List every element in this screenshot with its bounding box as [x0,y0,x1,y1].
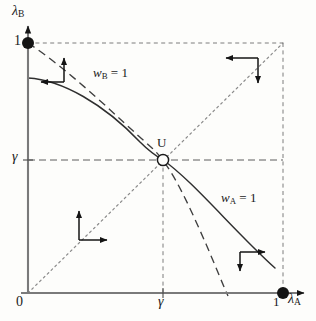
x-tick-label-gamma: γ [158,295,164,309]
direction-arrows-upper-left [41,58,64,82]
reference-line-diagonal [28,43,283,293]
origin-label: 0 [16,295,23,309]
y-tick-label-one: 1 [14,34,21,48]
equilibrium-point-u [157,154,168,165]
y-tick-label-gamma: γ [12,150,18,164]
direction-arrows-lower-left [79,211,107,240]
dot-y-axis-one [22,37,34,49]
nullcline-wa-label: wA = 1 [221,191,256,206]
plot-canvas [0,0,316,321]
nullcline-wa-curve [28,43,228,296]
x-tick-label-one: 1 [273,295,280,308]
y-axis-label: λB [12,4,24,20]
nullcline-wb-curve [28,78,275,268]
direction-arrows-upper-right [226,58,258,83]
nullcline-wb-label: wB = 1 [93,66,128,81]
phase-plane-figure: λB λA 1 1 γ γ 0 U wB = 1 wA = 1 [0,0,316,321]
equilibrium-label-u: U [157,136,166,149]
x-axis-label: λA [288,292,301,308]
